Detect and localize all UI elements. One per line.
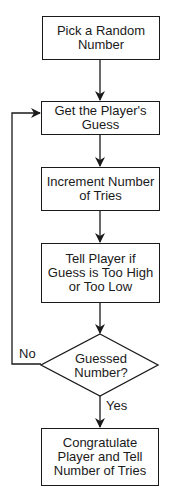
node-label: Increment Number of Tries <box>45 175 156 203</box>
node-pick-random-number: Pick a Random Number <box>42 16 160 60</box>
arrow-n5-n2-loop <box>12 113 41 364</box>
node-get-player-guess: Get the Player's Guess <box>41 101 160 135</box>
node-label: Pick a Random Number <box>46 24 156 52</box>
edge-label-yes: Yes <box>106 399 127 413</box>
node-label: Tell Player if Guess is Too High or Too … <box>45 252 156 294</box>
decision-label: Guessed Number? <box>70 352 132 380</box>
edge-label-no: No <box>19 347 36 361</box>
node-label: Congratulate Player and Tell Number of T… <box>45 436 155 478</box>
node-tell-high-low: Tell Player if Guess is Too High or Too … <box>41 243 160 303</box>
node-label: Get the Player's Guess <box>45 104 156 132</box>
node-increment-tries: Increment Number of Tries <box>41 167 160 211</box>
node-congratulate: Congratulate Player and Tell Number of T… <box>41 428 159 486</box>
